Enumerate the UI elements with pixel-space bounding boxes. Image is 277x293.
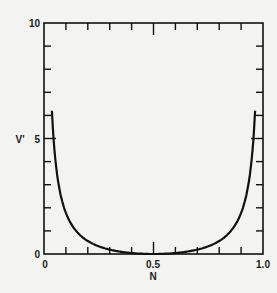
y-tick-label-0: 0 bbox=[34, 249, 40, 260]
plot-frame bbox=[44, 23, 263, 254]
x-tick-label-1.0: 1.0 bbox=[256, 259, 270, 270]
data-curve bbox=[52, 111, 255, 254]
x-tick-label-0: 0 bbox=[42, 259, 48, 270]
chart: 10 5 0 V' 0 0.5 1.0 N bbox=[0, 0, 277, 293]
y-tick-label-5: 5 bbox=[34, 134, 40, 145]
x-axis-label: N bbox=[149, 271, 156, 282]
y-axis-label: V' bbox=[15, 134, 24, 145]
y-tick-label-10: 10 bbox=[29, 18, 41, 29]
axis-ticks bbox=[44, 23, 263, 254]
x-tick-label-0.5: 0.5 bbox=[146, 259, 160, 270]
